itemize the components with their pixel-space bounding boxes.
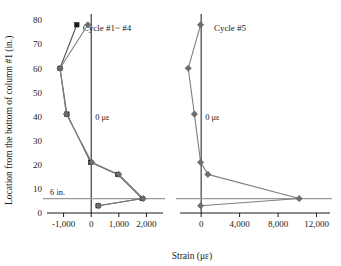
data-point xyxy=(75,23,79,27)
right-panel: 04,0008,00012,0000 μεCycle #5 xyxy=(176,14,332,229)
strain-profile-chart: 01020304050607080Location from the botto… xyxy=(0,0,341,266)
data-point xyxy=(197,159,203,165)
data-point xyxy=(197,203,203,209)
zero-strain-label: 0 με xyxy=(205,112,220,122)
y-tick-label-40: 40 xyxy=(33,112,43,122)
x-axis-title: Strain (με) xyxy=(172,251,212,262)
y-tick-label-50: 50 xyxy=(33,88,43,98)
y-tick-label-0: 0 xyxy=(38,208,43,218)
panel-title-cycle-5: Cycle #5 xyxy=(214,23,247,33)
data-point xyxy=(197,22,203,28)
data-point xyxy=(296,195,302,201)
series-cycle-5 xyxy=(185,22,302,209)
zero-strain-label: 0 με xyxy=(95,112,110,122)
x-tick-label-0: 0 xyxy=(199,219,204,229)
data-point xyxy=(185,65,191,71)
data-point xyxy=(205,171,211,177)
y-tick-label-30: 30 xyxy=(33,136,43,146)
x-tick-label-4,000: 4,000 xyxy=(229,219,250,229)
x-tick-label-8,000: 8,000 xyxy=(268,219,289,229)
chart-canvas: 01020304050607080Location from the botto… xyxy=(0,0,341,266)
x-tick-label-1,000: 1,000 xyxy=(109,219,130,229)
y-tick-label-20: 20 xyxy=(33,160,43,170)
y-tick-label-60: 60 xyxy=(33,64,43,74)
y-tick-label-70: 70 xyxy=(33,39,43,49)
left-panel: -1,00001,0002,0000 μεCycle #1~ #4 xyxy=(43,14,165,229)
y-tick-label-80: 80 xyxy=(33,15,43,25)
y-tick-label-10: 10 xyxy=(33,184,43,194)
x-tick-label--1,000: -1,000 xyxy=(52,219,76,229)
y-axis-title: Location from the bottom of column #1 (i… xyxy=(4,36,15,205)
x-tick-label-2,000: 2,000 xyxy=(136,219,157,229)
reference-line-label-6in: 6 in. xyxy=(50,187,65,197)
y-axis: 01020304050607080 xyxy=(33,15,43,218)
x-tick-label-0: 0 xyxy=(89,219,94,229)
x-tick-label-12,000: 12,000 xyxy=(304,219,329,229)
data-point xyxy=(191,111,197,117)
